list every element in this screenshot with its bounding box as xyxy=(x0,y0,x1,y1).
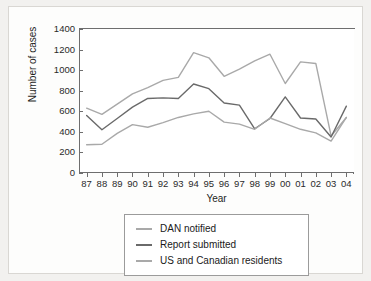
legend-label: Report submitted xyxy=(160,240,236,250)
x-axis-title: Year xyxy=(79,193,354,204)
x-tick-mark xyxy=(194,173,195,177)
x-tick-mark xyxy=(255,173,256,177)
x-tick-mark xyxy=(117,173,118,177)
y-tick-mark xyxy=(79,91,83,92)
y-tick-mark xyxy=(79,29,83,30)
y-tick-label: 600 xyxy=(59,106,75,116)
y-tick-label: 1000 xyxy=(54,65,75,75)
legend-label: DAN notified xyxy=(160,224,216,234)
legend-swatch-icon xyxy=(136,228,152,230)
y-tick-label: 1400 xyxy=(54,24,75,34)
legend-swatch-icon xyxy=(136,260,152,262)
legend-item: Report submitted xyxy=(125,237,308,253)
x-tick-mark xyxy=(331,173,332,177)
series-line xyxy=(87,53,347,136)
chart-legend: DAN notifiedReport submittedUS and Canad… xyxy=(124,214,309,276)
x-axis-tick-labels: 878889909192939495969798990001020304 xyxy=(79,179,354,193)
x-tick-mark xyxy=(132,173,133,177)
y-tick-mark xyxy=(79,70,83,71)
y-tick-label: 200 xyxy=(59,147,75,157)
series-lines xyxy=(79,29,354,173)
x-tick-mark xyxy=(87,173,88,177)
y-tick-label: 800 xyxy=(59,86,75,96)
y-axis-tick-labels: 0200400600800100012001400 xyxy=(35,7,75,281)
y-tick-label: 400 xyxy=(59,127,75,137)
x-tick-mark xyxy=(163,173,164,177)
y-tick-mark xyxy=(79,111,83,112)
x-tick-mark xyxy=(102,173,103,177)
series-line xyxy=(87,111,347,144)
x-tick-mark xyxy=(148,173,149,177)
chart-figure: Number of cases 020040060080010001200140… xyxy=(0,0,371,281)
legend-label: US and Canadian residents xyxy=(160,256,282,266)
x-tick-mark xyxy=(270,173,271,177)
y-tick-label: 0 xyxy=(70,168,75,178)
legend-swatch-icon xyxy=(136,244,152,246)
y-tick-mark xyxy=(79,132,83,133)
x-tick-mark xyxy=(316,173,317,177)
x-tick-mark xyxy=(209,173,210,177)
y-tick-mark xyxy=(79,173,83,174)
y-tick-mark xyxy=(79,50,83,51)
legend-item: DAN notified xyxy=(125,221,308,237)
y-tick-mark xyxy=(79,152,83,153)
x-tick-mark xyxy=(239,173,240,177)
x-tick-mark xyxy=(285,173,286,177)
x-tick-mark xyxy=(346,173,347,177)
y-tick-label: 1200 xyxy=(54,45,75,55)
x-tick-mark xyxy=(178,173,179,177)
chart-canvas: Number of cases 020040060080010001200140… xyxy=(8,6,363,274)
x-tick-mark xyxy=(224,173,225,177)
x-tick-label: 04 xyxy=(336,179,356,189)
x-tick-mark xyxy=(301,173,302,177)
legend-item: US and Canadian residents xyxy=(125,253,308,269)
